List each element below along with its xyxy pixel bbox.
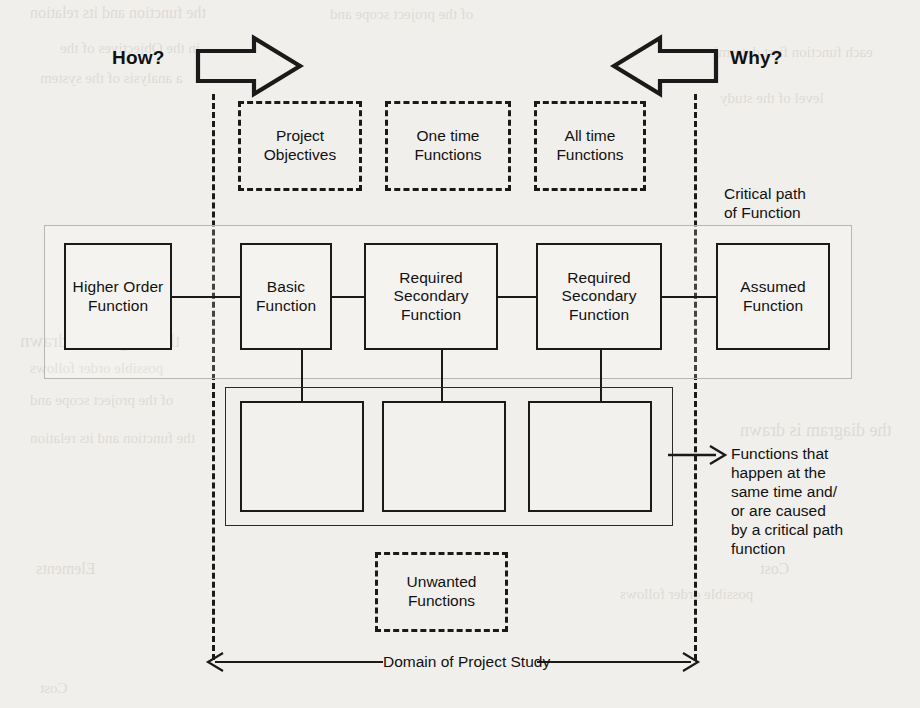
bleed-text: the function and its relation	[30, 430, 195, 447]
function-box-required-secondary-function-1[interactable]: Required Secondary Function	[364, 243, 498, 350]
bleed-text: of the project scope and	[330, 6, 473, 23]
function-box-assumed-function[interactable]: Assumed Function	[716, 243, 830, 350]
bleed-text: the diagram is drawn	[740, 420, 891, 441]
connector-rsf2-assumed	[660, 296, 718, 298]
scope-box-label: Project Objectives	[241, 127, 359, 164]
scope-box-all-time-functions[interactable]: All time Functions	[534, 101, 646, 191]
supporting-functions-pointer-arrow-icon	[668, 444, 730, 466]
how-label: How?	[112, 47, 165, 69]
bleed-text: a analysis of the system	[40, 70, 182, 87]
fast-diagram-canvas: the function and its relation of the pro…	[0, 0, 920, 708]
function-box-label: Basic Function	[242, 278, 330, 315]
function-box-label: Higher Order Function	[66, 278, 170, 315]
bleed-text: Cost	[760, 560, 789, 578]
bleed-text: level of the study	[720, 90, 824, 107]
supporting-function-box-2[interactable]	[382, 401, 506, 512]
how-arrow-icon	[196, 35, 302, 97]
bleed-text: of the project scope and	[30, 392, 173, 409]
function-box-required-secondary-function-2[interactable]: Required Secondary Function	[536, 243, 662, 350]
supporting-functions-annotation: Functions that happen at the same time a…	[731, 444, 843, 558]
connector-rsf1-rsf2	[496, 296, 538, 298]
connector-hof-basic	[170, 296, 242, 298]
critical-path-annotation: Critical path of Function	[724, 184, 806, 222]
scope-box-label: One time Functions	[388, 127, 508, 164]
domain-label: Domain of Project Study	[383, 652, 550, 671]
bleed-text: each function first determine	[700, 44, 873, 61]
scope-box-project-objectives[interactable]: Project Objectives	[238, 101, 362, 191]
why-label: Why?	[730, 47, 783, 69]
unwanted-functions-label: Unwanted Functions	[378, 573, 505, 610]
function-box-label: Required Secondary Function	[538, 269, 660, 324]
connector-basic-rsf1	[330, 296, 366, 298]
scope-box-one-time-functions[interactable]: One time Functions	[385, 101, 511, 191]
bleed-text: possible order follows	[620, 586, 753, 603]
function-box-higher-order-function[interactable]: Higher Order Function	[64, 243, 172, 350]
supporting-function-box-3[interactable]	[528, 401, 652, 512]
function-box-label: Required Secondary Function	[366, 269, 496, 324]
unwanted-functions-box[interactable]: Unwanted Functions	[375, 552, 508, 632]
bleed-text: the function and its relation	[30, 4, 206, 22]
scope-box-label: All time Functions	[537, 127, 643, 164]
function-box-basic-function[interactable]: Basic Function	[240, 243, 332, 350]
bleed-text: Elements	[36, 560, 96, 578]
why-arrow-icon	[612, 35, 718, 97]
bleed-text: Cost	[40, 680, 68, 697]
function-box-label: Assumed Function	[718, 278, 828, 315]
supporting-function-box-1[interactable]	[240, 401, 364, 512]
